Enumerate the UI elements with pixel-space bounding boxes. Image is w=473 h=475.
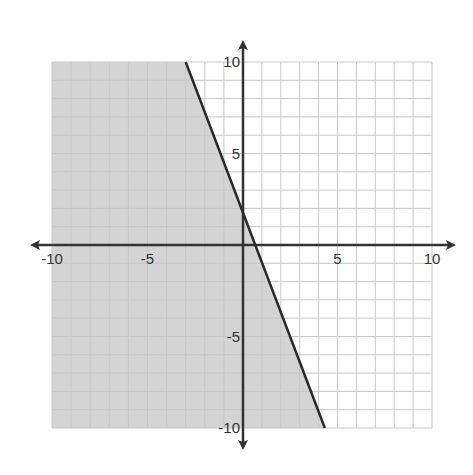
inequality-graph: -10-5510105-5-10: [0, 0, 473, 475]
y-tick-label: 10: [223, 53, 240, 70]
x-tick-label: -10: [41, 250, 63, 267]
x-tick-label: 5: [333, 250, 341, 267]
y-tick-label: -5: [227, 328, 240, 345]
x-tick-label: -5: [141, 250, 154, 267]
y-tick-label: 5: [232, 145, 240, 162]
x-tick-label: 10: [424, 250, 441, 267]
y-tick-label: -10: [218, 419, 240, 436]
